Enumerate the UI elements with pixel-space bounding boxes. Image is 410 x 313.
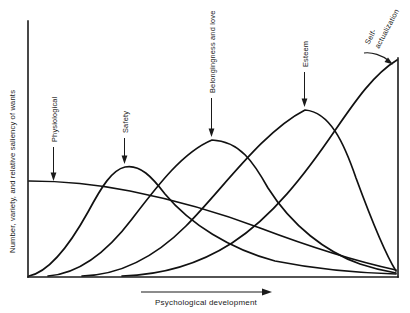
curve-label-belongingness: Belongingness and love [208, 11, 217, 93]
curve-self-actualization [122, 60, 397, 276]
x-axis-label-group: Psychological development [141, 288, 272, 307]
annotation-physiological: Physiological [50, 96, 59, 181]
annotation-arrow-head-esteem [302, 99, 308, 108]
annotation-belongingness: Belongingness and love [208, 11, 217, 137]
curve-label-self-actualization-line2: actualization [373, 7, 401, 50]
annotation-arrow-head-belongingness [209, 129, 215, 138]
y-axis-label: Number, variety, and relative saliency o… [8, 90, 17, 253]
annotation-esteem: Esteem [301, 41, 310, 107]
curve-label-safety: Safety [121, 111, 130, 133]
annotation-arrow-head-physiological [51, 173, 57, 182]
annotation-safety: Safety [121, 111, 130, 164]
curve-label-esteem: Esteem [301, 41, 310, 67]
x-axis-direction-arrow-head [262, 288, 272, 295]
annotation-self-actualization: Self- actualization [363, 7, 401, 64]
curve-safety [29, 167, 396, 276]
curve-esteem [82, 110, 396, 276]
annotation-arrow-line-self-actualization [364, 53, 389, 61]
chart-canvas: Physiological Safety Belongingness and l… [0, 0, 410, 313]
annotation-arrow-head-safety [122, 156, 128, 165]
x-axis-label: Psychological development [155, 298, 258, 307]
maslow-needs-curve-figure: Physiological Safety Belongingness and l… [0, 0, 410, 313]
curve-label-physiological: Physiological [50, 96, 59, 142]
